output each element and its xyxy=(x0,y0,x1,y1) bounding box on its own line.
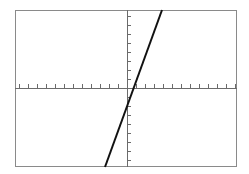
graph-app xyxy=(0,0,249,174)
plot-canvas xyxy=(0,0,249,174)
